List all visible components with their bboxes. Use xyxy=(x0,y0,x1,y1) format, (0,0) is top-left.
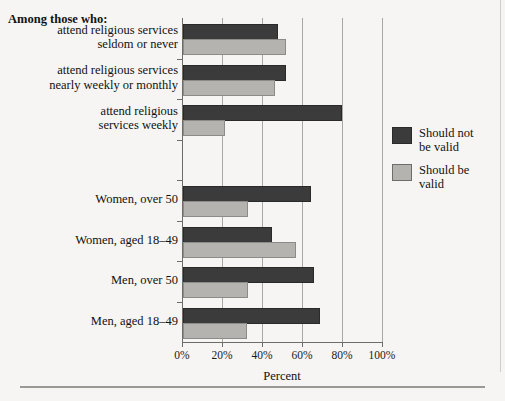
gridline-80 xyxy=(342,18,343,342)
bar-should-be-valid-4 xyxy=(183,201,248,217)
x-tick-label-100: 100% xyxy=(369,349,396,361)
figure-right-rule xyxy=(500,0,501,372)
chart-legend: Should not be valid Should be valid xyxy=(392,126,500,200)
x-tick-0 xyxy=(182,342,183,347)
bar-should-not-be-valid-2 xyxy=(183,105,342,121)
x-axis-line xyxy=(182,342,383,343)
category-label-line: services weekly xyxy=(2,118,178,133)
legend-item-should-not-be-valid: Should not be valid xyxy=(392,126,500,154)
x-tick-20 xyxy=(222,342,223,347)
bar-should-be-valid-6 xyxy=(183,282,248,298)
bar-should-not-be-valid-7 xyxy=(183,308,320,324)
category-label-2: attend religiousservices weekly xyxy=(2,104,178,133)
bar-should-not-be-valid-1 xyxy=(183,65,286,81)
plot-area: Percent 0%20%40%60%80%100% xyxy=(182,18,382,342)
bar-should-not-be-valid-6 xyxy=(183,267,314,283)
category-label-line: Men, over 50 xyxy=(2,273,178,288)
bar-should-be-valid-2 xyxy=(183,120,225,136)
x-tick-100 xyxy=(382,342,383,347)
y-tick-2 xyxy=(177,99,182,100)
legend-swatch-icon-should-not-be-valid xyxy=(392,127,412,144)
category-label-7: Men, aged 18–49 xyxy=(2,314,178,329)
category-axis-labels: attend religious servicesseldom or never… xyxy=(0,0,178,401)
x-axis-title: Percent xyxy=(263,369,300,384)
legend-item-should-be-valid: Should be valid xyxy=(392,163,500,191)
gridline-60 xyxy=(302,18,303,342)
y-tick-5 xyxy=(177,221,182,222)
category-label-4: Women, over 50 xyxy=(2,192,178,207)
category-label-line: Men, aged 18–49 xyxy=(2,314,178,329)
x-tick-label-20: 20% xyxy=(211,349,232,361)
x-tick-80 xyxy=(342,342,343,347)
x-tick-40 xyxy=(262,342,263,347)
bar-should-be-valid-7 xyxy=(183,323,247,339)
y-tick-6 xyxy=(177,261,182,262)
category-label-line: Women, aged 18–49 xyxy=(2,233,178,248)
bar-should-not-be-valid-5 xyxy=(183,227,272,243)
x-tick-label-40: 40% xyxy=(251,349,272,361)
x-tick-label-80: 80% xyxy=(331,349,352,361)
category-label-0: attend religious servicesseldom or never xyxy=(2,23,178,52)
chart-figure: Among those who: attend religious servic… xyxy=(0,0,505,401)
legend-label-should-not-be-valid: Should not be valid xyxy=(419,126,474,154)
bar-should-be-valid-0 xyxy=(183,39,286,55)
category-label-6: Men, over 50 xyxy=(2,273,178,288)
category-label-line: attend religious services xyxy=(2,23,178,38)
y-tick-7 xyxy=(177,302,182,303)
bar-should-not-be-valid-4 xyxy=(183,186,311,202)
bar-should-be-valid-1 xyxy=(183,80,275,96)
category-label-line: attend religious services xyxy=(2,63,178,78)
category-label-line: nearly weekly or monthly xyxy=(2,78,178,93)
y-tick-4 xyxy=(177,180,182,181)
category-label-line: attend religious xyxy=(2,104,178,119)
bar-should-be-valid-5 xyxy=(183,242,296,258)
legend-label-should-be-valid: Should be valid xyxy=(419,163,469,191)
category-label-1: attend religious servicesnearly weekly o… xyxy=(2,63,178,92)
category-label-line: Women, over 50 xyxy=(2,192,178,207)
x-tick-label-60: 60% xyxy=(291,349,312,361)
category-label-line: seldom or never xyxy=(2,37,178,52)
x-tick-label-0: 0% xyxy=(174,349,189,361)
y-tick-3 xyxy=(177,140,182,141)
legend-swatch-icon-should-be-valid xyxy=(392,164,412,181)
category-label-5: Women, aged 18–49 xyxy=(2,233,178,248)
bar-should-not-be-valid-0 xyxy=(183,24,278,40)
x-tick-60 xyxy=(302,342,303,347)
gridline-100 xyxy=(382,18,383,342)
y-tick-1 xyxy=(177,59,182,60)
